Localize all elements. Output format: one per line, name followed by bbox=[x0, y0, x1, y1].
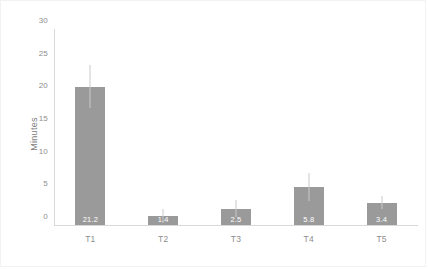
x-axis-line bbox=[54, 225, 418, 226]
y-axis-tick-10: 10 bbox=[39, 146, 48, 155]
plot-area: 05101520253021.2T11.4T22.5T35.8T43.4T5 bbox=[54, 29, 418, 225]
bar-value-label-T4: 5.8 bbox=[303, 216, 314, 224]
error-bar-T2 bbox=[163, 209, 164, 223]
bar-group-T1: 21.2T1 bbox=[54, 29, 127, 225]
bar-value-label-T1: 21.2 bbox=[83, 216, 98, 224]
y-axis-label: Minutes bbox=[29, 117, 39, 151]
bar-chart: Minutes 05101520253021.2T11.4T22.5T35.8T… bbox=[0, 0, 426, 267]
error-bar-T1 bbox=[90, 65, 91, 108]
bar-value-label-T5: 3.4 bbox=[376, 216, 387, 224]
y-axis-tick-0: 0 bbox=[43, 212, 48, 221]
error-bar-T3 bbox=[235, 200, 236, 217]
x-axis-tick-T4: T4 bbox=[304, 234, 314, 244]
bar-group-T2: 1.4T2 bbox=[127, 29, 200, 225]
error-bar-T5 bbox=[381, 196, 382, 209]
x-axis-tick-T5: T5 bbox=[376, 234, 386, 244]
x-axis-tick-T2: T2 bbox=[158, 234, 168, 244]
y-axis-tick-30: 30 bbox=[39, 16, 48, 25]
x-axis-tick-T3: T3 bbox=[231, 234, 241, 244]
bar-group-T5: 3.4T5 bbox=[345, 29, 418, 225]
x-axis-tick-T1: T1 bbox=[85, 234, 95, 244]
error-bar-T4 bbox=[308, 173, 309, 202]
y-axis-tick-15: 15 bbox=[39, 114, 48, 123]
y-axis-tick-5: 5 bbox=[43, 179, 48, 188]
y-axis-tick-25: 25 bbox=[39, 48, 48, 57]
bar-group-T4: 5.8T4 bbox=[272, 29, 345, 225]
bar-group-T3: 2.5T3 bbox=[200, 29, 273, 225]
y-axis-tick-20: 20 bbox=[39, 81, 48, 90]
